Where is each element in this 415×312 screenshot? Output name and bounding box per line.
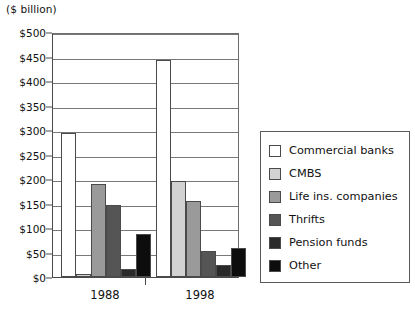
legend-item: Thrifts xyxy=(269,208,409,231)
bar xyxy=(216,265,231,277)
chart-unit-caption: ($ billion) xyxy=(6,3,57,15)
legend-item-label: Pension funds xyxy=(289,237,368,248)
bar xyxy=(136,234,151,277)
legend-item-label: CMBS xyxy=(289,168,321,179)
gridline xyxy=(53,132,238,133)
bar xyxy=(231,248,246,277)
legend-swatch-icon xyxy=(269,237,281,249)
y-axis-tick-label: $400 xyxy=(0,77,46,88)
gridline xyxy=(53,83,238,84)
y-axis-tick-label: $250 xyxy=(0,150,46,161)
gridline xyxy=(53,206,238,207)
y-axis-tick-label: $50 xyxy=(0,248,46,259)
plot-area xyxy=(52,33,239,278)
gridline xyxy=(53,34,238,35)
legend-swatch-icon xyxy=(269,145,281,157)
bar xyxy=(186,201,201,277)
y-axis-tick-label: $100 xyxy=(0,224,46,235)
bar-chart-figure: ($ billion) $0$50$100$150$200$250$300$35… xyxy=(0,0,415,312)
legend-swatch-icon xyxy=(269,214,281,226)
legend-item: CMBS xyxy=(269,162,409,185)
legend-item-label: Thrifts xyxy=(289,214,325,225)
y-axis-tick-label: $150 xyxy=(0,199,46,210)
legend-item: Life ins. companies xyxy=(269,185,409,208)
legend-swatch-icon xyxy=(269,191,281,203)
bar xyxy=(121,269,136,277)
y-axis-tick-label: $0 xyxy=(0,273,46,284)
bar xyxy=(171,181,186,277)
gridline xyxy=(53,157,238,158)
y-axis-tick-label: $300 xyxy=(0,126,46,137)
legend-swatch-icon xyxy=(269,168,281,180)
gridline xyxy=(53,59,238,60)
x-axis-divider-tick xyxy=(145,278,146,285)
legend-item: Pension funds xyxy=(269,231,409,254)
y-axis-tick-label: $350 xyxy=(0,101,46,112)
legend-item-label: Commercial banks xyxy=(289,145,394,156)
gridline xyxy=(53,230,238,231)
bar xyxy=(76,274,91,277)
legend-item-label: Other xyxy=(289,260,321,271)
y-axis-tick-label: $500 xyxy=(0,28,46,39)
legend-item-label: Life ins. companies xyxy=(289,191,398,202)
legend-item: Commercial banks xyxy=(269,139,409,162)
y-axis-tick-label: $200 xyxy=(0,175,46,186)
legend-item: Other xyxy=(269,254,409,277)
x-axis-tick-label: 1998 xyxy=(155,288,245,302)
bar xyxy=(156,60,171,277)
bar xyxy=(61,133,76,277)
bar xyxy=(106,205,121,277)
y-axis-tick-label: $450 xyxy=(0,52,46,63)
bar xyxy=(91,184,106,277)
bar xyxy=(201,251,216,277)
gridline xyxy=(53,108,238,109)
chart-legend: Commercial banksCMBSLife ins. companiesT… xyxy=(260,131,410,283)
legend-swatch-icon xyxy=(269,260,281,272)
gridline xyxy=(53,181,238,182)
x-axis-tick-label: 1988 xyxy=(60,288,150,302)
